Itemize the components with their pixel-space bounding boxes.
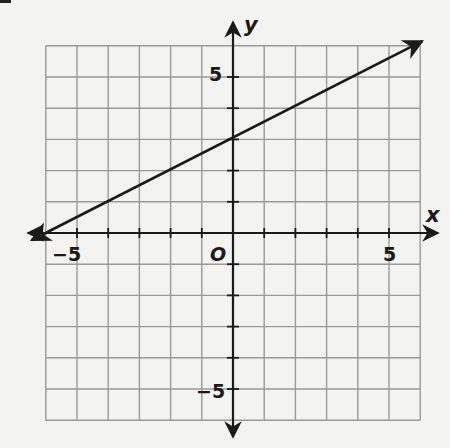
x-axis-label: x bbox=[425, 203, 441, 227]
origin-label: O bbox=[210, 243, 226, 265]
y-tick-label-5: 5 bbox=[209, 63, 222, 85]
line-y-equals-half-x-plus-3 bbox=[32, 41, 422, 240]
x-tick-label-5: 5 bbox=[383, 243, 396, 265]
axis-labels: x y O −5 5 5 −5 bbox=[52, 13, 441, 402]
x-tick-label-neg5: −5 bbox=[52, 243, 81, 265]
plotted-line bbox=[32, 41, 422, 240]
y-axis-label: y bbox=[244, 13, 259, 37]
y-tick-label-neg5: −5 bbox=[196, 380, 225, 402]
coordinate-plane: x y O −5 5 5 −5 bbox=[0, 0, 450, 448]
axes bbox=[28, 22, 438, 437]
